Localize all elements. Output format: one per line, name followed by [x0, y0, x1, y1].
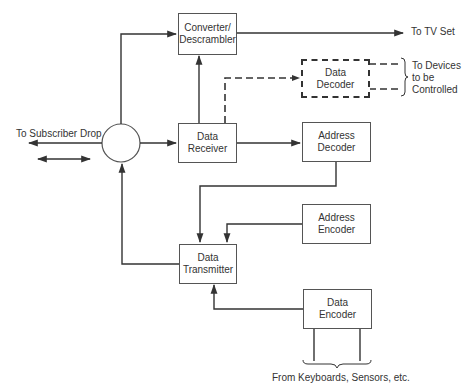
data-decoder-block: Data Decoder: [301, 59, 370, 98]
data-receiver-block: Data Receiver: [178, 123, 237, 163]
splitter-circle: [102, 124, 140, 162]
receiver-to-data-decoder-dashed-line: [225, 78, 298, 123]
data-transmitter-label: Data Transmitter: [183, 252, 233, 276]
converter-descrambler-block: Converter/ Descrambler: [178, 13, 237, 55]
data-encoder-label: Data Encoder: [319, 297, 356, 321]
data-encoder-block: Data Encoder: [303, 289, 372, 329]
subscriber-drop-label: To Subscriber Drop: [16, 128, 102, 140]
data-decoder-arrowhead: [292, 75, 300, 81]
inputs-brace: [303, 360, 371, 368]
address-encoder-label: Address Encoder: [318, 212, 355, 236]
address-encoder-to-transmitter-line: [227, 224, 302, 242]
devices-label: To Devices to be Controlled: [412, 60, 461, 96]
data-encoder-to-transmitter-line: [214, 285, 303, 309]
address-decoder-label: Address Decoder: [318, 130, 356, 154]
inputs-label: From Keyboards, Sensors, etc.: [272, 372, 410, 384]
data-receiver-label: Data Receiver: [188, 131, 227, 155]
converter-descrambler-label: Converter/ Descrambler: [179, 22, 236, 46]
address-decoder-block: Address Decoder: [302, 122, 371, 162]
transmitter-to-circle-line: [122, 164, 179, 264]
data-transmitter-block: Data Transmitter: [179, 244, 237, 284]
data-decoder-label: Data Decoder: [317, 67, 355, 91]
address-encoder-block: Address Encoder: [302, 204, 371, 244]
tv-set-label: To TV Set: [411, 26, 455, 38]
diagram-wires: [0, 0, 472, 389]
devices-brace: [401, 58, 408, 96]
circle-to-converter-line: [121, 34, 176, 124]
